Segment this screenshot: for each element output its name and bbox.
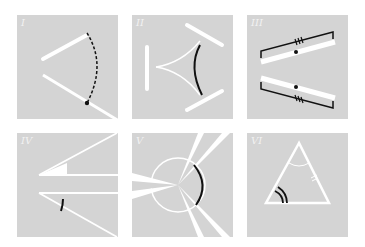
- two-angles-diagram: [17, 133, 118, 237]
- panel-2: II: [132, 15, 233, 119]
- panel-6: VI: [247, 133, 348, 237]
- panel-1: I: [17, 15, 118, 119]
- panel-4: IV: [17, 133, 118, 237]
- bracket-bars-diagram: [247, 15, 348, 119]
- angle-diagram: [17, 15, 118, 119]
- circle-wedges-diagram: [132, 133, 233, 237]
- panel-3: III: [247, 15, 348, 119]
- triangle-diagram: [247, 133, 348, 237]
- panel-5: V: [132, 133, 233, 237]
- curved-triangle-diagram: [132, 15, 233, 119]
